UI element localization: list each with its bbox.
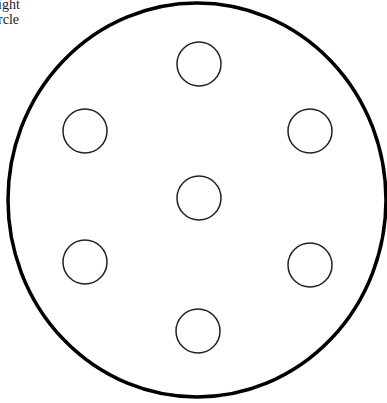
small-circle-upper-left xyxy=(63,109,107,153)
small-circle-bottom xyxy=(176,309,220,353)
small-circle-lower-left xyxy=(63,240,107,284)
diagram-canvas: ight rcle xyxy=(0,0,387,403)
circle-diagram xyxy=(0,0,387,403)
small-circle-upper-right xyxy=(288,109,332,153)
small-circle-top xyxy=(177,42,221,86)
small-circle-center xyxy=(177,176,221,220)
small-circles-group xyxy=(63,42,332,353)
outer-circle xyxy=(8,3,386,397)
small-circle-lower-right xyxy=(288,243,332,287)
